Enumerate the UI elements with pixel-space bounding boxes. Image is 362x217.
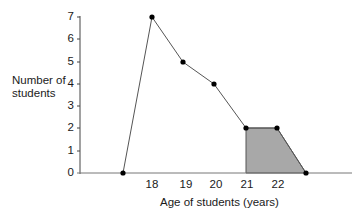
y-tick-label: 1 xyxy=(62,144,74,156)
y-tick-label: 7 xyxy=(62,10,74,22)
y-tick-label: 6 xyxy=(62,32,74,44)
y-axis-label-line-2: students xyxy=(12,87,66,100)
y-axis-label-line-1: Number of xyxy=(12,74,66,87)
x-tick-label: 21 xyxy=(237,178,257,190)
shaded-region xyxy=(246,128,306,173)
y-axis-label: Number of students xyxy=(12,74,66,100)
y-tick-label: 2 xyxy=(62,121,74,133)
y-tick-label: 3 xyxy=(62,99,74,111)
x-tick-label: 18 xyxy=(142,178,162,190)
x-axis-label: Age of students (years) xyxy=(160,196,279,209)
x-tick-label: 19 xyxy=(176,178,196,190)
x-tick-label: 22 xyxy=(268,178,288,190)
y-tick-label: 0 xyxy=(62,166,74,178)
x-tick-label: 20 xyxy=(206,178,226,190)
y-tick-label: 5 xyxy=(62,55,74,67)
